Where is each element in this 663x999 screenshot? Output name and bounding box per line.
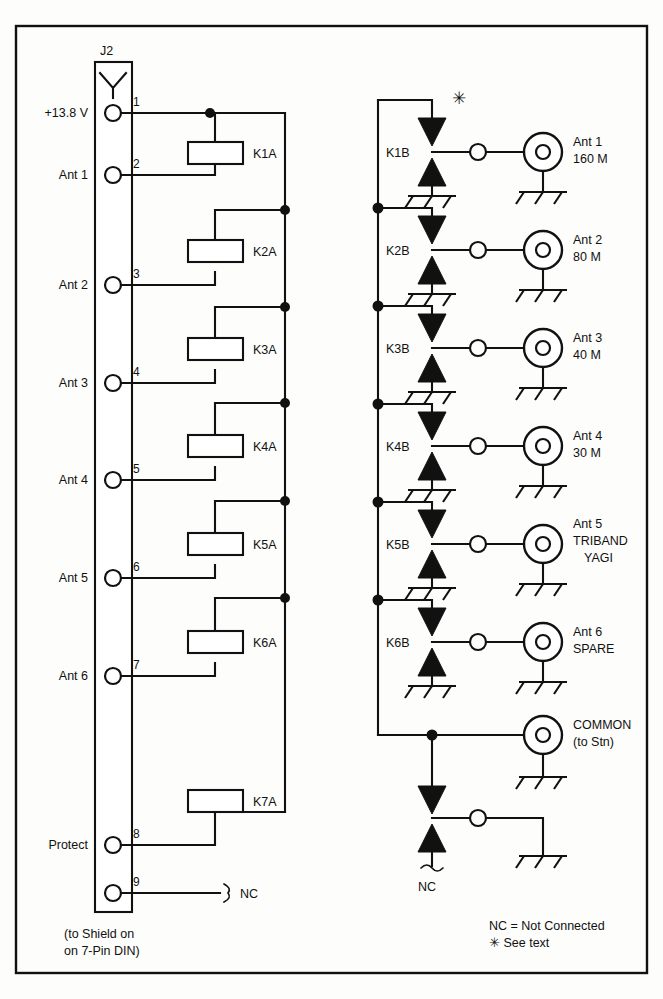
pin-terminal-9[interactable] (105, 885, 121, 901)
contact-arrow-down-k7b-icon (418, 786, 446, 814)
ant-label-k6b-line1: Ant 6 (573, 625, 602, 639)
contact-arrow-up-k1b-icon (418, 158, 446, 186)
contact-label-k5b: K5B (386, 538, 410, 552)
ant-label-k3b-line2: 40 M (573, 348, 601, 362)
pin-number-4: 4 (133, 365, 140, 379)
contact-label-k3b: K3B (386, 342, 410, 356)
coil-group-k7a: K7A (188, 790, 285, 812)
ground-symbol-ant5-icon (516, 584, 567, 596)
pin-terminal-7[interactable] (105, 668, 121, 684)
terminal-k4b[interactable] (470, 438, 486, 454)
terminal-k3b[interactable] (470, 340, 486, 356)
contact-arrow-up-k3b-icon (418, 354, 446, 382)
contact-arrow-down-k6b-icon (418, 608, 446, 636)
coax-pin-ant4-icon (536, 439, 550, 453)
star-marker-note: ✳ (452, 89, 466, 108)
wire-k2a-top (215, 210, 285, 240)
contact-arrow-up-k5b-icon (418, 550, 446, 578)
coax-pin-ant5-icon (536, 537, 550, 551)
pin-label-8: Protect (48, 838, 88, 852)
common-label-line1: COMMON (573, 718, 631, 732)
contact-arrow-up-k2b-icon (418, 256, 446, 284)
wire-k6b-feed (378, 600, 432, 608)
pin-terminal-2[interactable] (105, 167, 121, 183)
pin-terminal-4[interactable] (105, 375, 121, 391)
pin-number-2: 2 (133, 157, 140, 171)
contact-arrow-down-k4b-icon (418, 412, 446, 440)
ground-symbol-ant2-icon (516, 290, 567, 302)
ant-label-k3b-line1: Ant 3 (573, 331, 602, 345)
pin-number-1: 1 (133, 95, 140, 109)
pin-label-6: Ant 5 (59, 571, 88, 585)
ground-symbol-ant1-icon (516, 192, 567, 204)
ant-label-k4b-line2: 30 M (573, 446, 601, 460)
ant-label-k5b-line2: TRIBAND (573, 534, 628, 548)
coil-box-k4a (188, 435, 243, 457)
ground-symbol-ant4-icon (516, 486, 567, 498)
coil-box-k2a (188, 240, 243, 262)
ground-symbol-k2b-icon (405, 294, 456, 306)
coil-group-k2a: K2A (188, 205, 290, 262)
ground-symbol-ant3-icon (516, 388, 567, 400)
coil-group-k1a: K1A (188, 108, 277, 164)
coil-box-k3a (188, 338, 243, 360)
coil-group-k5a: K5A (188, 496, 290, 555)
pin9-nc-label: NC (240, 887, 258, 901)
ant-label-k5b-line3: YAGI (584, 551, 613, 565)
contact-group-k5b: K5B Ant 5 TRIBAND YAGI (373, 497, 628, 601)
ground-symbol-k6b-icon (405, 686, 456, 698)
terminal-k1b[interactable] (470, 144, 486, 160)
coax-pin-ant2-icon (536, 243, 550, 257)
ant-label-k4b-line1: Ant 4 (573, 429, 602, 443)
coil-box-k7a (188, 790, 243, 812)
coil-label-k6a: K6A (253, 636, 277, 650)
legend-line2: ✳ See text (489, 936, 550, 950)
pin-terminal-8[interactable] (105, 837, 121, 853)
wire-k6a-top (215, 598, 285, 631)
wire-k5b-feed (378, 502, 432, 510)
wire-k2b-feed (378, 208, 432, 216)
contact-arrow-up-k7b-icon (418, 824, 446, 852)
pin-terminal-3[interactable] (105, 277, 121, 293)
junction-dot-k1a (205, 108, 215, 118)
pin-number-7: 7 (133, 658, 140, 672)
ant-label-k2b-line1: Ant 2 (573, 233, 602, 247)
common-label-line2: (to Stn) (573, 735, 614, 749)
wire-k4a-top (215, 403, 285, 435)
ground-symbol-k5b-icon (405, 588, 456, 600)
terminal-k5b[interactable] (470, 536, 486, 552)
coax-pin-ant1-icon (536, 145, 550, 159)
ant-label-k5b-line1: Ant 5 (573, 517, 602, 531)
pin-number-8: 8 (133, 827, 140, 841)
terminal-k2b[interactable] (470, 242, 486, 258)
pin-terminal-6[interactable] (105, 570, 121, 586)
contact-arrow-down-k3b-icon (418, 314, 446, 342)
pin-number-5: 5 (133, 462, 140, 476)
connector-footnote-line1: (to Shield on (64, 927, 134, 941)
wire-k4b-feed (378, 404, 432, 412)
pin-row-5: Ant 4 5 (59, 462, 215, 488)
ground-symbol-k4b-icon (405, 490, 456, 502)
schematic-sheet: J2 (to Shield on on 7-Pin DIN) +13.8 V 1… (0, 0, 663, 999)
terminal-k6b[interactable] (470, 634, 486, 650)
nc-brace-icon (224, 884, 229, 902)
ant-label-k1b-line1: Ant 1 (573, 135, 602, 149)
coax-pin-common-icon (536, 728, 550, 742)
pin-terminal-5[interactable] (105, 472, 121, 488)
contact-arrow-down-k1b-icon (418, 118, 446, 146)
wire-k7b-to-gnd (486, 818, 543, 856)
contact-group-k6b: K6B Ant 6 SPARE (373, 595, 615, 699)
coil-label-k3a: K3A (253, 343, 277, 357)
contact-group-k2b: K2B Ant 2 80 M (373, 203, 603, 307)
contact-arrow-down-k2b-icon (418, 216, 446, 244)
terminal-k7b[interactable] (470, 810, 486, 826)
coil-box-k1a (188, 142, 243, 164)
connector-j2-label: J2 (100, 44, 113, 58)
pin-terminal-1[interactable] (105, 105, 121, 121)
ground-symbol-k1b-icon (405, 196, 456, 208)
ant-label-k1b-line2: 160 M (573, 152, 608, 166)
coil-label-k4a: K4A (253, 440, 277, 454)
schematic-canvas: J2 (to Shield on on 7-Pin DIN) +13.8 V 1… (0, 0, 663, 999)
ground-symbol-k3b-icon (405, 392, 456, 404)
wire-k5a-top (215, 501, 285, 533)
